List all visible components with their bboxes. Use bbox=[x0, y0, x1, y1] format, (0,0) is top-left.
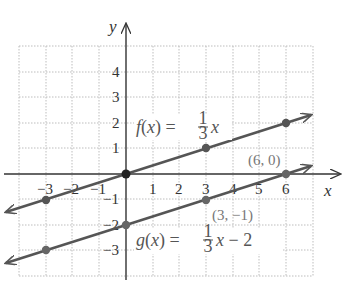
svg-text:2: 2 bbox=[112, 115, 120, 131]
x-axis-label: x bbox=[323, 181, 332, 200]
svg-text:−1: −1 bbox=[103, 191, 119, 207]
svg-text:−3: −3 bbox=[37, 181, 53, 197]
g-function-label: g(x) = 1 3 x − 2 bbox=[134, 221, 282, 256]
f-function-label: f(x) = 1 3 x bbox=[134, 108, 232, 143]
svg-text:x: x bbox=[210, 117, 219, 137]
svg-text:1: 1 bbox=[149, 181, 157, 197]
point-label-3-m1: (3, −1) bbox=[212, 207, 253, 224]
svg-text:x − 2: x − 2 bbox=[215, 230, 252, 250]
svg-text:4: 4 bbox=[112, 64, 120, 80]
svg-text:2: 2 bbox=[175, 181, 183, 197]
svg-text:6: 6 bbox=[282, 181, 290, 197]
svg-text:3: 3 bbox=[204, 236, 213, 256]
coordinate-plane: y x −3 −2 −1 1 2 3 4 5 6 4 3 2 1 −1 −2 −… bbox=[0, 0, 355, 288]
svg-text:3: 3 bbox=[199, 123, 208, 143]
svg-text:f(x) =: f(x) = bbox=[136, 117, 176, 138]
point-label-6-0: (6, 0) bbox=[248, 152, 281, 169]
y-axis-label: y bbox=[107, 17, 117, 36]
svg-text:−3: −3 bbox=[103, 242, 119, 258]
svg-text:3: 3 bbox=[112, 89, 120, 105]
svg-text:1: 1 bbox=[112, 140, 120, 156]
svg-text:g(x) =: g(x) = bbox=[136, 230, 180, 251]
svg-text:3: 3 bbox=[202, 181, 210, 197]
